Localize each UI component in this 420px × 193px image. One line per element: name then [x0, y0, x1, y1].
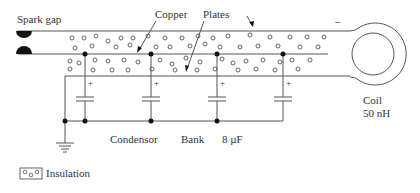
bank-label: Bank: [181, 134, 204, 145]
spark-gap-label: Spark gap: [17, 14, 61, 25]
ground-icon: [56, 143, 74, 152]
copper-arrow: [139, 21, 156, 50]
copper-label: Copper: [155, 9, 187, 20]
capacitor-1-plus: +: [88, 79, 93, 88]
spark-gap-upper-electrode: [16, 31, 32, 38]
insulation-legend-swatch: [20, 168, 42, 179]
coil-value: 50 nH: [363, 108, 390, 119]
small-arrowhead: [249, 21, 254, 27]
capacitor-2-plus: +: [154, 79, 159, 88]
diagram-canvas: [0, 0, 420, 193]
spark-gap-lower-electrode: [16, 46, 32, 54]
plates-label: Plates: [203, 9, 229, 20]
minus-sign: –: [335, 16, 341, 27]
insulation-pattern: [68, 33, 326, 72]
coil-inner: [352, 33, 394, 75]
capacitor-3-plus: +: [220, 79, 225, 88]
coil-outer: [350, 23, 406, 85]
capacitance-label: 8 µF: [222, 134, 243, 145]
condensor-bank-diagram: Spark gap Copper Plates – Coil 50 nH Con…: [0, 0, 420, 193]
capacitor-4-plus: +: [286, 79, 291, 88]
plates-arrow: [187, 21, 204, 69]
coil-label: Coil: [363, 95, 382, 106]
legend-insulation-label: Insulation: [46, 168, 90, 179]
condensor-label: Condensor: [110, 134, 158, 145]
plates-arrowhead: [185, 65, 189, 72]
